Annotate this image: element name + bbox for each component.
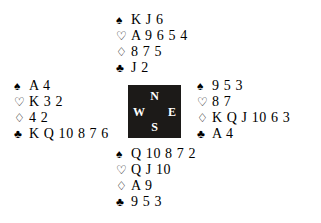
hand-east-diamonds-row: ♢ K Q J 10 6 3 <box>197 110 290 126</box>
spade-icon: ♠ <box>116 146 129 162</box>
hand-south: ♠ Q 10 8 7 2 ♡ Q J 10 ♢ A 9 ♣ 9 5 3 <box>116 146 196 210</box>
club-icon: ♣ <box>116 194 129 210</box>
hand-east-clubs-row: ♣ A 4 <box>197 126 290 142</box>
compass-box: N W E S <box>128 85 181 138</box>
hand-north-hearts-row: ♡ A 9 6 5 4 <box>116 28 188 44</box>
heart-icon: ♡ <box>14 94 27 110</box>
heart-icon: ♡ <box>116 162 129 178</box>
hand-east-hearts-row: ♡ 8 7 <box>197 94 290 110</box>
hand-west-clubs: K Q 10 8 7 6 <box>27 126 109 142</box>
hand-west-spades: A 4 <box>27 78 51 94</box>
hand-south-hearts-row: ♡ Q J 10 <box>116 162 196 178</box>
bridge-deal-diagram: ♠ K J 6 ♡ A 9 6 5 4 ♢ 8 7 5 ♣ J 2 ♠ A 4 … <box>0 0 321 223</box>
hand-west-clubs-row: ♣ K Q 10 8 7 6 <box>14 126 109 142</box>
hand-west-hearts: K 3 2 <box>27 94 63 110</box>
hand-west-spades-row: ♠ A 4 <box>14 78 109 94</box>
spade-icon: ♠ <box>197 78 210 94</box>
hand-east-clubs: A 4 <box>210 126 234 142</box>
diamond-icon: ♢ <box>116 44 129 60</box>
diamond-icon: ♢ <box>14 110 27 126</box>
hand-north-diamonds-row: ♢ 8 7 5 <box>116 44 188 60</box>
hand-west: ♠ A 4 ♡ K 3 2 ♢ 4 2 ♣ K Q 10 8 7 6 <box>14 78 109 142</box>
hand-south-spades-row: ♠ Q 10 8 7 2 <box>116 146 196 162</box>
compass-label-north: N <box>128 90 181 102</box>
compass-label-south: S <box>128 121 181 133</box>
hand-north-diamonds: 8 7 5 <box>129 44 162 60</box>
hand-east-spades: 9 5 3 <box>210 78 243 94</box>
diamond-icon: ♢ <box>116 178 129 194</box>
diamond-icon: ♢ <box>197 110 210 126</box>
hand-north-spades: K J 6 <box>129 12 164 28</box>
heart-icon: ♡ <box>116 28 129 44</box>
hand-west-diamonds-row: ♢ 4 2 <box>14 110 109 126</box>
hand-south-hearts: Q J 10 <box>129 162 171 178</box>
hand-north-hearts: A 9 6 5 4 <box>129 28 188 44</box>
hand-south-clubs-row: ♣ 9 5 3 <box>116 194 196 210</box>
compass-label-west: W <box>133 106 145 118</box>
club-icon: ♣ <box>116 60 129 76</box>
hand-south-spades: Q 10 8 7 2 <box>129 146 196 162</box>
hand-south-clubs: 9 5 3 <box>129 194 162 210</box>
hand-south-diamonds: A 9 <box>129 178 153 194</box>
hand-east-diamonds: K Q J 10 6 3 <box>210 110 290 126</box>
hand-east: ♠ 9 5 3 ♡ 8 7 ♢ K Q J 10 6 3 ♣ A 4 <box>197 78 290 142</box>
hand-west-hearts-row: ♡ K 3 2 <box>14 94 109 110</box>
club-icon: ♣ <box>197 126 210 142</box>
hand-north-clubs-row: ♣ J 2 <box>116 60 188 76</box>
hand-north: ♠ K J 6 ♡ A 9 6 5 4 ♢ 8 7 5 ♣ J 2 <box>116 12 188 76</box>
hand-north-clubs: J 2 <box>129 60 149 76</box>
hand-east-hearts: 8 7 <box>210 94 231 110</box>
hand-east-spades-row: ♠ 9 5 3 <box>197 78 290 94</box>
spade-icon: ♠ <box>14 78 27 94</box>
club-icon: ♣ <box>14 126 27 142</box>
hand-south-diamonds-row: ♢ A 9 <box>116 178 196 194</box>
compass-label-east: E <box>168 106 176 118</box>
hand-north-spades-row: ♠ K J 6 <box>116 12 188 28</box>
hand-west-diamonds: 4 2 <box>27 110 48 126</box>
heart-icon: ♡ <box>197 94 210 110</box>
spade-icon: ♠ <box>116 12 129 28</box>
